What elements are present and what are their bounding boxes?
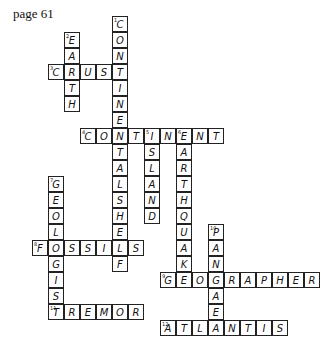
cell-letter: T	[181, 323, 187, 334]
cell-letter: A	[213, 243, 220, 254]
crossword-cell: A	[112, 160, 128, 176]
cell-letter: A	[213, 323, 220, 334]
crossword-cell: C4	[80, 128, 96, 144]
cell-letter: A	[149, 179, 156, 190]
cell-letter: D	[148, 211, 156, 222]
cell-letter: E	[117, 227, 123, 238]
cell-letter: S	[277, 323, 283, 334]
cell-letter: T	[117, 147, 123, 158]
crossword-cell: A	[208, 240, 224, 256]
crossword-cell: P10	[208, 224, 224, 240]
cell-letter: N	[148, 195, 155, 206]
crossword-cell: H	[176, 192, 192, 208]
crossword-cell: O	[192, 272, 208, 288]
clue-number: 10	[210, 225, 216, 231]
cell-letter: E	[53, 195, 59, 206]
crossword-cell: S	[48, 288, 64, 304]
crossword-cell: P	[256, 272, 272, 288]
cell-letter: E	[69, 35, 75, 46]
cell-letter: N	[116, 99, 123, 110]
cell-letter: E	[85, 307, 91, 318]
cell-letter: O	[116, 307, 124, 318]
crossword-cell: T	[176, 320, 192, 336]
crossword-cell: T	[208, 128, 224, 144]
cell-letter: C	[85, 131, 92, 142]
clue-number: 7	[50, 177, 53, 183]
crossword-cell: S	[128, 240, 144, 256]
crossword-cell: O	[96, 128, 112, 144]
cell-letter: H	[68, 99, 76, 110]
crossword-cell: S	[112, 192, 128, 208]
crossword-cell: O	[112, 32, 128, 48]
cell-letter: T	[133, 131, 139, 142]
cell-letter: A	[213, 291, 220, 302]
crossword-cell: O	[48, 208, 64, 224]
crossword-cell: I	[256, 320, 272, 336]
crossword-cell: R	[64, 304, 80, 320]
clue-number: 12	[162, 321, 168, 327]
crossword-cell: R	[304, 272, 320, 288]
clue-number: 11	[50, 305, 56, 311]
cell-letter: A	[245, 275, 252, 286]
cell-letter: R	[69, 67, 76, 78]
cell-letter: I	[103, 243, 106, 254]
crossword-cell: A12	[160, 320, 176, 336]
crossword-cell: E	[80, 304, 96, 320]
cell-letter: I	[151, 131, 154, 142]
cell-letter: N	[116, 51, 123, 62]
cell-letter: O	[116, 35, 124, 46]
cell-letter: U	[84, 67, 91, 78]
crossword-cell: T	[112, 144, 128, 160]
crossword-cell: A	[176, 144, 192, 160]
cell-letter: L	[149, 163, 155, 174]
crossword-cell: E2	[64, 32, 80, 48]
crossword-cell: N	[160, 128, 176, 144]
crossword-cell: K	[176, 256, 192, 272]
crossword-cell: S	[96, 64, 112, 80]
crossword-cell: F8	[32, 240, 48, 256]
crossword-cell: A	[144, 176, 160, 192]
clue-number: 3	[50, 65, 53, 71]
cell-letter: G	[52, 259, 60, 270]
crossword-cell: E6	[176, 128, 192, 144]
crossword-cell: A	[208, 288, 224, 304]
clue-number: 8	[34, 241, 37, 247]
cell-letter: I	[119, 83, 122, 94]
clue-number: 5	[146, 129, 149, 135]
crossword-cell: L	[48, 224, 64, 240]
crossword-cell: T	[128, 128, 144, 144]
crossword-cell: U	[176, 224, 192, 240]
crossword-cell: A	[240, 272, 256, 288]
crossword-cell: H	[64, 96, 80, 112]
cell-letter: G	[52, 179, 60, 190]
crossword-cell: N	[112, 48, 128, 64]
cell-letter: H	[276, 275, 284, 286]
clue-number: 9	[162, 273, 165, 279]
crossword-cell: S	[64, 240, 80, 256]
cell-letter: O	[52, 243, 60, 254]
crossword-cell: L	[192, 320, 208, 336]
clue-number: 4	[82, 129, 85, 135]
crossword-cell: S	[144, 144, 160, 160]
crossword-cell: R	[176, 160, 192, 176]
cell-letter: O	[52, 211, 60, 222]
crossword-cell: L	[144, 160, 160, 176]
crossword-cell: T	[112, 64, 128, 80]
cell-letter: A	[117, 163, 124, 174]
cell-letter: Q	[180, 211, 188, 222]
clue-number: 1	[114, 17, 117, 23]
crossword-cell: O	[48, 240, 64, 256]
cell-letter: L	[117, 179, 123, 190]
cell-letter: M	[100, 307, 109, 318]
cell-letter: L	[53, 227, 59, 238]
cell-letter: T	[181, 179, 187, 190]
cell-letter: U	[180, 227, 187, 238]
cell-letter: C	[117, 19, 124, 30]
crossword-grid: C1ONTINENTALSHELFE2ARTHC3USC4OTI5NE6NTSL…	[0, 0, 331, 355]
cell-letter: T	[245, 323, 251, 334]
cell-letter: S	[101, 67, 107, 78]
crossword-cell: N	[112, 96, 128, 112]
crossword-cell: I	[112, 80, 128, 96]
cell-letter: R	[69, 307, 76, 318]
crossword-cell: E	[112, 224, 128, 240]
